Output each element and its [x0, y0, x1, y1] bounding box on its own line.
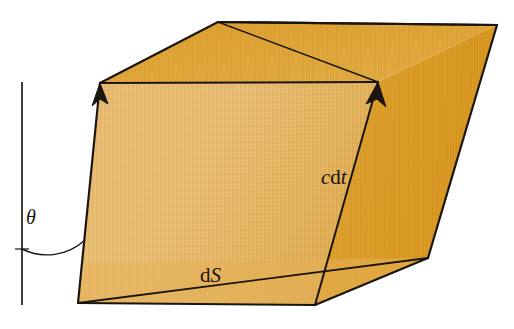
dS-differential-d: d — [200, 263, 211, 287]
angle-theta-label: θ — [26, 207, 36, 227]
figure-canvas: θ dS cdt — [0, 0, 514, 329]
edge-top-front — [100, 82, 378, 83]
length-cdt-label: cdt — [321, 167, 347, 188]
cdt-differential-d: d — [330, 165, 341, 189]
theta-arc — [15, 240, 85, 255]
parallelepiped-diagram — [0, 0, 514, 329]
cdt-speed-c: c — [321, 165, 330, 189]
cdt-time-t: t — [341, 165, 347, 189]
dS-symbol-S: S — [211, 263, 222, 287]
area-element-dS-label: dS — [200, 265, 221, 286]
